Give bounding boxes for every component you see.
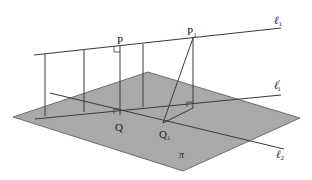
- right-angle-mark-P: [114, 47, 120, 52]
- label-l1: ℓ1: [274, 14, 283, 28]
- label-l1-prime: ℓ′1: [274, 79, 281, 93]
- label-P1: P1: [187, 25, 197, 39]
- line-l1: [34, 28, 281, 55]
- label-Q: Q: [115, 121, 123, 133]
- label-l2: ℓ2: [276, 148, 285, 162]
- label-P: P: [117, 34, 123, 46]
- plane-pi: [13, 72, 300, 171]
- skew-lines-diagram: P P1 Q Q1 ℓ1 ℓ′1 ℓ2 π: [0, 0, 312, 180]
